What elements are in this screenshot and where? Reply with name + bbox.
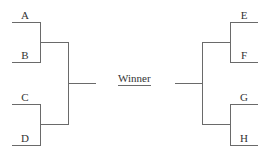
match-cd-connector (40, 104, 41, 146)
match-ef-output (202, 42, 231, 43)
left-final-output (68, 83, 96, 84)
team-label-a: A (15, 10, 35, 21)
match-ab-output (40, 42, 69, 43)
slot-line-c (12, 104, 41, 105)
winner-underline (118, 85, 151, 86)
slot-line-f (230, 62, 258, 63)
match-gh-output (202, 124, 231, 125)
slot-line-e (230, 22, 258, 23)
slot-line-g (230, 104, 258, 105)
match-gh-connector (230, 104, 231, 146)
team-label-h: H (234, 133, 254, 144)
slot-line-a (12, 22, 41, 23)
team-label-d: D (15, 133, 35, 144)
team-label-b: B (15, 50, 35, 61)
team-label-e: E (234, 10, 254, 21)
winner-label: Winner (118, 72, 151, 84)
team-label-c: C (15, 92, 35, 103)
slot-line-d (12, 145, 41, 146)
slot-line-h (230, 145, 258, 146)
slot-line-b (12, 62, 41, 63)
team-label-f: F (234, 50, 254, 61)
match-cd-output (40, 124, 69, 125)
right-final-output (175, 83, 203, 84)
team-label-g: G (234, 92, 254, 103)
